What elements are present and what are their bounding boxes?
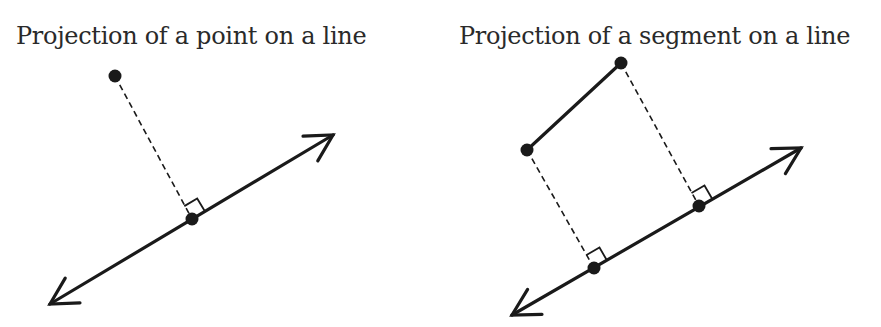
projection-foot-b-dot xyxy=(588,262,601,275)
right-angle-marker-icon xyxy=(586,248,606,261)
segment xyxy=(527,63,621,150)
panel-segment-projection xyxy=(512,57,801,316)
diagram-canvas xyxy=(0,0,881,327)
projection-foot-dot xyxy=(186,213,199,226)
projection-line xyxy=(512,148,801,315)
segment-endpoint-a-dot xyxy=(615,57,628,70)
perpendicular-dashed-line xyxy=(527,150,594,268)
projection-foot-a-dot xyxy=(693,200,706,213)
panel-point-projection xyxy=(50,70,333,305)
perpendicular-dashed-line xyxy=(115,76,192,219)
point-dot xyxy=(109,70,122,83)
perpendicular-dashed-line xyxy=(621,63,699,206)
segment-endpoint-b-dot xyxy=(521,144,534,157)
